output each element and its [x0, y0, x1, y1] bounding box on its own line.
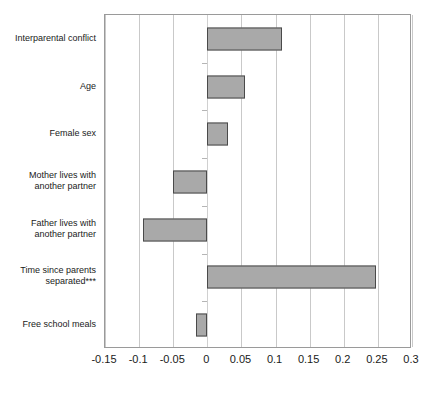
- bar: [207, 27, 281, 50]
- category-label: Mother lives with another partner: [0, 170, 96, 192]
- x-tick-label: 0.3: [391, 353, 431, 365]
- bar-row: [105, 63, 410, 111]
- plot-area: [104, 14, 411, 348]
- category-label: Free school meals: [0, 319, 96, 330]
- axis-tick: [202, 301, 207, 302]
- axis-tick: [202, 158, 207, 159]
- axis-tick: [202, 63, 207, 64]
- axis-tick: [202, 254, 207, 255]
- bar: [207, 266, 376, 289]
- gridline: [412, 15, 413, 347]
- category-label: Time since parents separated***: [0, 265, 96, 287]
- bar: [143, 218, 208, 241]
- bar-row: [105, 15, 410, 63]
- axis-tick: [202, 206, 207, 207]
- bar: [207, 123, 227, 146]
- bar-row: [105, 206, 410, 254]
- category-label: Female sex: [0, 128, 96, 139]
- category-label: Father lives with another partner: [0, 218, 96, 240]
- bar: [173, 170, 207, 193]
- axis-tick: [202, 110, 207, 111]
- bar-row: [105, 301, 410, 349]
- bar: [207, 75, 245, 98]
- horizontal-bar-chart: Interparental conflictAgeFemale sexMothe…: [0, 0, 431, 395]
- bar-row: [105, 110, 410, 158]
- bar-row: [105, 254, 410, 302]
- category-label: Age: [0, 80, 96, 91]
- bar-row: [105, 158, 410, 206]
- bar: [196, 314, 207, 337]
- category-label: Interparental conflict: [0, 32, 96, 43]
